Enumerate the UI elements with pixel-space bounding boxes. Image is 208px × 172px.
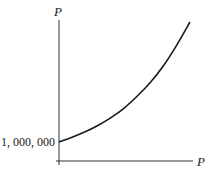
chart: P P 1, 000, 000 [0,0,208,172]
y-axis-label: P [53,4,62,19]
growth-curve [59,22,190,142]
x-axis-label: P [196,154,205,169]
y-tick-label: 1, 000, 000 [1,135,55,149]
